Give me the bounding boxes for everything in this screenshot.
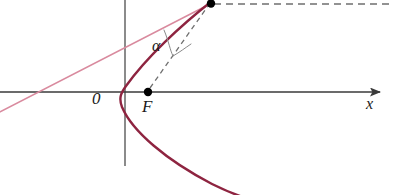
angle-arc-marker (164, 30, 191, 56)
focus-label: F (142, 98, 152, 115)
angle-alpha-label: α (152, 38, 160, 54)
x-axis-label: x (366, 96, 373, 112)
figure-canvas (0, 0, 410, 195)
parabola-curve (120, 1, 252, 195)
origin-label: 0 (92, 90, 101, 107)
focus-point (144, 88, 152, 96)
parabola-figure: 0 F x α (0, 0, 410, 195)
tangent-line (0, 5, 208, 115)
